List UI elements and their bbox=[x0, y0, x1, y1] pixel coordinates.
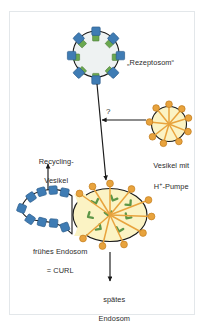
proton-pump-dot bbox=[160, 140, 167, 147]
label-vesikel-mit-h-pumpe: Vesikel mit H+-Pumpe bbox=[131, 152, 203, 200]
endosome-pump-dot bbox=[140, 230, 147, 237]
endosome-pump-dot bbox=[121, 241, 128, 248]
pumpe-text: -Pumpe bbox=[162, 182, 188, 191]
label-h-pumpe-line: H+-Pumpe bbox=[154, 182, 189, 191]
receptor-blue bbox=[92, 27, 100, 35]
endosome-pump-dot bbox=[148, 213, 155, 220]
proton-pump-dot bbox=[153, 105, 160, 112]
proton-pump-vesicle-structure bbox=[146, 101, 192, 147]
label-vesikel-line1: Vesikel mit bbox=[153, 161, 189, 170]
label-fruehes-endosom-curl: frühes Endosom = CURL bbox=[10, 238, 102, 284]
proton-pump-dot bbox=[176, 138, 183, 145]
label-spaetes-endosom: spätes Endosom bbox=[70, 286, 150, 328]
label-recycling-vesikel: Recycling- Vesikel bbox=[17, 148, 87, 194]
label-endosom-line1: frühes Endosom bbox=[33, 247, 88, 256]
receptor-blue bbox=[49, 219, 58, 228]
receptosome-structure bbox=[67, 27, 124, 84]
proton-pump-dot bbox=[146, 119, 153, 126]
proton-pump-dot bbox=[185, 115, 192, 122]
endosome-pump-dot bbox=[107, 180, 114, 187]
proton-pump-dot bbox=[179, 106, 186, 113]
receptor-blue bbox=[37, 217, 47, 227]
label-recycling-line2: Vesikel bbox=[44, 176, 68, 185]
label-spaetes-line2: Endosom bbox=[98, 314, 130, 323]
endosome-pump-dot bbox=[89, 183, 96, 190]
proton-pump-dot bbox=[185, 128, 192, 135]
figure-root: „Rezeptosom“ Vesikel mit H+-Pumpe Recycl… bbox=[0, 0, 207, 328]
label-endosom-line2: = CURL bbox=[47, 266, 74, 275]
label-question-mark: ? bbox=[106, 107, 111, 116]
receptor-blue bbox=[67, 51, 75, 59]
label-spaetes-line1: spätes bbox=[103, 295, 125, 304]
receptor-blue bbox=[92, 76, 100, 84]
proton-pump-dot bbox=[166, 101, 173, 108]
arrow-receptosome-to-endosome bbox=[97, 84, 106, 180]
receptor-blue bbox=[116, 51, 124, 59]
label-recycling-line1: Recycling- bbox=[39, 157, 74, 166]
proton-pump-dot bbox=[149, 134, 156, 141]
label-rezeptosom: „Rezeptosom“ bbox=[127, 58, 174, 67]
